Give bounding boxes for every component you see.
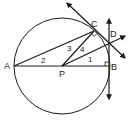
label-point-b: B — [111, 62, 117, 72]
right-angle-mark-c — [92, 34, 97, 37]
label-angle-3: 3 — [67, 44, 72, 53]
label-angle-4: 4 — [80, 45, 85, 54]
label-point-p: P — [59, 69, 65, 79]
label-angle-1: 1 — [88, 55, 93, 64]
geometry-diagram: A P B C D 1 2 3 4 — [0, 0, 129, 122]
label-point-d: D — [110, 29, 117, 39]
label-point-a: A — [4, 61, 10, 71]
label-point-c: C — [91, 19, 98, 29]
label-angle-2: 2 — [41, 56, 46, 65]
